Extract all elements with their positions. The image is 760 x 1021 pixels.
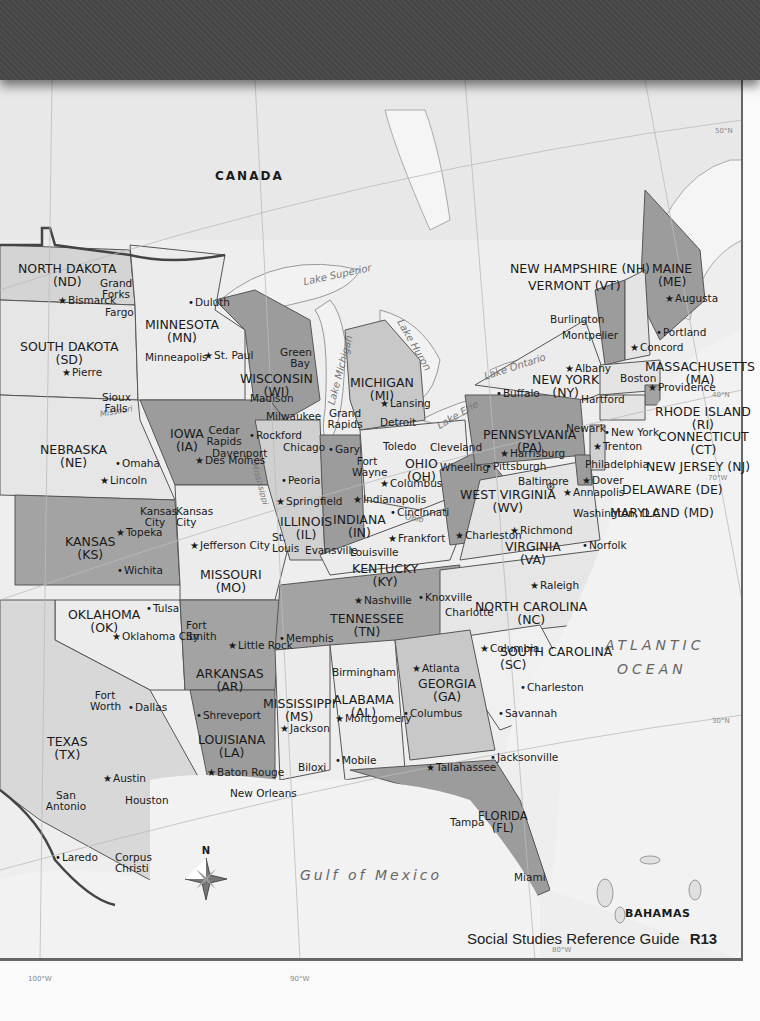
capital-columbia: Columbia (480, 643, 540, 655)
city-gary: Gary (328, 444, 360, 456)
state-label-tx: TEXAS(TX) (47, 735, 88, 761)
compass-star-icon (184, 857, 228, 901)
footer-title: Social Studies Reference Guide (467, 930, 680, 947)
capital-pierre: Pierre (62, 367, 102, 379)
city-wichita: Wichita (117, 565, 163, 577)
capital-concord: Concord (630, 342, 683, 354)
state-label-ar: ARKANSAS(AR) (196, 667, 264, 693)
coord-80w: 80°W (552, 947, 571, 954)
state-label-mn: MINNESOTA(MN) (145, 318, 219, 344)
city-shreveport: Shreveport (196, 710, 261, 722)
capital-st-paul: St. Paul (204, 350, 253, 362)
city-knoxville: Knoxville (418, 592, 472, 604)
city-sioux-falls: Sioux Falls (102, 392, 130, 414)
city-wheeling: Wheeling (440, 462, 489, 473)
capital-columbus-oh: Columbus (380, 478, 442, 490)
capital-dover: Dover (582, 475, 623, 487)
water-label-atlantic-2: OCEAN (617, 662, 687, 677)
coord-50n: 50°N (715, 128, 733, 135)
city-cincinnati: Cincinnati (390, 507, 449, 519)
capital-lansing: Lansing (380, 398, 431, 410)
city-buffalo: Buffalo (496, 388, 540, 400)
city-laredo: Laredo (55, 852, 98, 864)
city-grand-rapids: Grand Rapids (326, 408, 364, 430)
state-label-nh: NEW HAMPSHIRE (NH) (510, 262, 650, 275)
city-minneapolis: Minneapolis (145, 352, 208, 363)
page-footer: Social Studies Reference GuideR13 (467, 930, 717, 947)
water-label-atlantic-1: ATLANTIC (605, 638, 704, 653)
country-label-bahamas: BAHAMAS (625, 908, 691, 920)
state-label-ks: KANSAS(KS) (65, 535, 116, 561)
city-burlington: Burlington (550, 314, 605, 325)
state-label-tn: TENNESSEE(TN) (330, 612, 404, 638)
capital-hartford: Hartford (581, 394, 625, 405)
city-miami: Miami (514, 872, 546, 883)
city-cedar-rapids: Cedar Rapids (205, 425, 243, 447)
city-omaha: Omaha (115, 458, 160, 470)
capital-raleigh: Raleigh (530, 580, 579, 592)
city-grand-forks: Grand Forks (100, 278, 130, 300)
state-label-ct: CONNECTICUT(CT) (658, 430, 749, 456)
state-label-ky: KENTUCKY(KY) (352, 562, 418, 588)
city-davenport: Davenport (212, 448, 267, 459)
city-peoria: Peoria (281, 475, 320, 487)
city-rockford: Rockford (249, 430, 302, 442)
state-label-de: DELAWARE (DE) (622, 483, 723, 496)
city-columbus-ga: Columbus (403, 708, 462, 720)
capital-jefferson-city: Jefferson City (190, 540, 270, 552)
capital-topeka: Topeka (116, 527, 162, 539)
state-label-vt: VERMONT (VT) (528, 279, 621, 292)
capital-providence: Providence (648, 382, 716, 394)
capital-montpelier: Montpelier (562, 330, 618, 341)
water-label-gulf-of-mexico: Gulf of Mexico (300, 868, 442, 883)
city-tulsa: Tulsa (146, 603, 179, 615)
city-philadelphia: Philadelphia (585, 459, 649, 470)
city-detroit: Detroit (380, 417, 416, 428)
state-label-ri: RHODE ISLAND(RI) (655, 405, 751, 431)
city-louisville: Louisville (350, 547, 399, 558)
city-fort-smith: Fort Smith (186, 620, 216, 642)
national-capital-washington-dc: Washington, D.C. (573, 508, 663, 519)
capital-augusta: Augusta (665, 293, 718, 305)
capital-annapolis: Annapolis (563, 487, 624, 499)
city-fargo: Fargo (105, 307, 134, 318)
city-new-york: New York (604, 427, 659, 439)
state-label-ms: MISSISSIPPI(MS) (263, 697, 335, 723)
compass-rose: N (184, 846, 228, 904)
city-fort-worth: Fort Worth (90, 690, 120, 712)
state-label-in: INDIANA(IN) (333, 513, 386, 539)
city-cleveland: Cleveland (430, 442, 482, 453)
city-chicago: Chicago (283, 442, 325, 453)
coord-100w: 100°W (28, 976, 52, 983)
city-san-antonio: San Antonio (45, 790, 87, 812)
capital-albany: Albany (565, 363, 611, 375)
city-mobile: Mobile (335, 755, 376, 767)
state-label-la: LOUISIANA(LA) (198, 733, 265, 759)
page-margin-bottom (0, 961, 760, 1021)
capital-frankfort: Frankfort (388, 533, 445, 545)
capital-springfield: Springfield (276, 496, 343, 508)
city-new-orleans: New Orleans (230, 788, 297, 799)
city-memphis: Memphis (279, 633, 333, 645)
country-label-canada: CANADA (215, 170, 284, 183)
city-savannah: Savannah (498, 708, 557, 720)
city-birmingham: Birmingham (332, 667, 396, 678)
page-edge (742, 80, 760, 1021)
state-label-va: VIRGINIA(VA) (505, 540, 561, 566)
page-number: R13 (690, 930, 718, 947)
city-houston: Houston (125, 795, 169, 806)
city-fort-wayne: Fort Wayne (352, 456, 382, 478)
state-label-fl: FLORIDA(FL) (478, 810, 528, 834)
capital-lincoln: Lincoln (100, 475, 147, 487)
city-portland: Portland (656, 327, 706, 339)
capital-jackson: Jackson (280, 723, 330, 735)
state-label-ia: IOWA(IA) (170, 427, 204, 453)
capital-tallahassee: Tallahassee (426, 762, 496, 774)
capital-trenton: Trenton (593, 441, 642, 453)
capital-austin: Austin (103, 773, 146, 785)
capital-madison: Madison (250, 393, 294, 404)
city-norfolk: Norfolk (582, 540, 627, 552)
page-header-band (0, 0, 760, 80)
map-frame-right (741, 80, 743, 960)
city-st-louis: St. Louis (272, 532, 297, 554)
